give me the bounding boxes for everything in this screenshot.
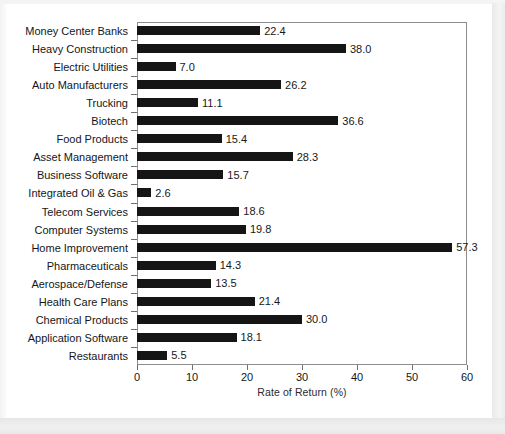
x-axis-tick-label: 40 [337, 370, 377, 384]
category-label: Money Center Banks [0, 22, 133, 40]
x-axis-tick-label: 20 [227, 370, 267, 384]
y-axis-tick [131, 58, 137, 59]
y-axis-tick [131, 94, 137, 95]
bar-band: 21.4 [137, 293, 467, 311]
bar-band: 19.8 [137, 221, 467, 239]
bar-value-label: 26.2 [285, 76, 306, 94]
bar [137, 207, 239, 216]
category-label: Heavy Construction [0, 40, 133, 58]
bar-band: 2.6 [137, 184, 467, 202]
bar [137, 297, 255, 306]
bar [137, 243, 452, 252]
bar-band: 18.1 [137, 329, 467, 347]
y-axis-tick [131, 203, 137, 204]
category-label: Home Improvement [0, 239, 133, 257]
category-label: Biotech [0, 112, 133, 130]
bar-band: 36.6 [137, 112, 467, 130]
x-axis-tick-label: 50 [392, 370, 432, 384]
x-axis-tick-label: 0 [117, 370, 157, 384]
bar [137, 315, 302, 324]
y-axis-tick [131, 257, 137, 258]
bar [137, 333, 237, 342]
bar-band: 30.0 [137, 311, 467, 329]
category-label: Computer Systems [0, 221, 133, 239]
y-axis-tick [131, 130, 137, 131]
horizontal-bar-chart: Money Center BanksHeavy ConstructionElec… [0, 0, 505, 434]
y-axis-tick [131, 311, 137, 312]
bar-band: 26.2 [137, 76, 467, 94]
bar-value-label: 14.3 [220, 256, 241, 274]
y-axis-tick [131, 76, 137, 77]
y-axis-tick [131, 221, 137, 222]
bar-value-label: 7.0 [180, 58, 195, 76]
bar-value-label: 22.4 [264, 22, 285, 40]
y-axis-tick [131, 347, 137, 348]
category-label: Pharmaceuticals [0, 257, 133, 275]
category-label: Aerospace/Defense [0, 275, 133, 293]
y-axis-tick [131, 112, 137, 113]
bars-layer: 22.438.07.026.211.136.615.428.315.72.618… [137, 22, 467, 365]
bar-value-label: 57.3 [456, 238, 477, 256]
bar-value-label: 11.1 [202, 94, 223, 112]
bar-value-label: 28.3 [297, 148, 318, 166]
bar [137, 26, 260, 35]
bar-value-label: 19.8 [250, 220, 271, 238]
bar-band: 11.1 [137, 94, 467, 112]
bar [137, 62, 176, 71]
bar-value-label: 18.6 [243, 202, 264, 220]
bar [137, 170, 223, 179]
bar [137, 188, 151, 197]
y-axis-tick [131, 329, 137, 330]
bar-value-label: 15.7 [227, 166, 248, 184]
bar-value-label: 21.4 [259, 292, 280, 310]
bar-value-label: 5.5 [171, 346, 186, 364]
y-axis-tick [131, 184, 137, 185]
bar [137, 152, 293, 161]
bar-band: 28.3 [137, 148, 467, 166]
y-axis-tick [131, 239, 137, 240]
bar-band: 7.0 [137, 58, 467, 76]
category-label: Telecom Services [0, 203, 133, 221]
bar-band: 13.5 [137, 275, 467, 293]
bar [137, 116, 338, 125]
bar-value-label: 15.4 [226, 130, 247, 148]
bar-value-label: 38.0 [350, 40, 371, 58]
bar-band: 15.7 [137, 166, 467, 184]
bar-value-label: 30.0 [306, 310, 327, 328]
category-label: Application Software [0, 329, 133, 347]
x-axis-tick-label: 60 [447, 370, 487, 384]
bar [137, 279, 211, 288]
bar-value-label: 13.5 [215, 274, 236, 292]
category-label: Electric Utilities [0, 58, 133, 76]
category-label: Trucking [0, 94, 133, 112]
bar-band: 5.5 [137, 347, 467, 365]
bar-value-label: 18.1 [241, 328, 262, 346]
y-axis-tick [131, 166, 137, 167]
y-axis-tick [131, 148, 137, 149]
bar [137, 98, 198, 107]
bar-value-label: 36.6 [342, 112, 363, 130]
bar-band: 14.3 [137, 257, 467, 275]
bar [137, 351, 167, 360]
x-axis-tick-label: 30 [282, 370, 322, 384]
bar-band: 38.0 [137, 40, 467, 58]
category-label: Health Care Plans [0, 293, 133, 311]
x-axis-title: Rate of Return (%) [137, 386, 467, 398]
bar [137, 44, 346, 53]
y-axis-tick [131, 293, 137, 294]
category-label: Asset Management [0, 148, 133, 166]
bar [137, 261, 216, 270]
bar [137, 80, 281, 89]
y-axis-tick [131, 275, 137, 276]
bar [137, 134, 222, 143]
bar-band: 57.3 [137, 239, 467, 257]
category-label: Food Products [0, 130, 133, 148]
category-label: Business Software [0, 166, 133, 184]
category-axis-labels: Money Center BanksHeavy ConstructionElec… [0, 22, 133, 365]
category-label: Integrated Oil & Gas [0, 184, 133, 202]
bar-value-label: 2.6 [155, 184, 170, 202]
category-label: Restaurants [0, 347, 133, 365]
bar-band: 18.6 [137, 203, 467, 221]
bar [137, 225, 246, 234]
x-axis-tick-label: 10 [172, 370, 212, 384]
